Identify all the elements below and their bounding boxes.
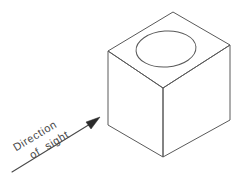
direction-of-sight-text-group: Direction of sight: [11, 115, 71, 166]
arrow-head-icon: [86, 117, 100, 129]
isometric-cube-drawing: Direction of sight: [0, 0, 246, 180]
technical-drawing-figure: Direction of sight: [0, 0, 246, 180]
direction-of-sight-annotation: Direction of sight: [11, 115, 100, 172]
